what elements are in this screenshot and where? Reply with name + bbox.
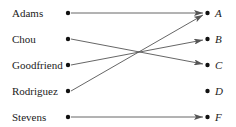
codomain-dot — [205, 63, 209, 67]
codomain-dot — [205, 37, 209, 41]
arrow-chou-c — [71, 39, 203, 64]
name-label: Goodfriend — [12, 59, 63, 71]
domain-set: Adams Chou Goodfriend Rodriguez Stevens — [12, 7, 70, 123]
codomain-dot — [205, 115, 209, 119]
name-label: Stevens — [12, 111, 46, 123]
arrow-rodriguez-a — [71, 15, 203, 91]
name-label: Adams — [12, 7, 43, 19]
codomain-dot — [205, 11, 209, 15]
name-label: Rodriguez — [12, 85, 58, 97]
grade-label: C — [215, 59, 223, 71]
domain-dot — [66, 115, 70, 119]
grade-label: B — [215, 33, 222, 45]
codomain-dot — [205, 89, 209, 93]
domain-dot — [66, 37, 70, 41]
grade-label: D — [214, 85, 223, 97]
grade-label: F — [214, 111, 222, 123]
arrows — [71, 13, 203, 117]
name-label: Chou — [12, 33, 36, 45]
grade-label: A — [214, 7, 222, 19]
domain-dot — [66, 63, 70, 67]
domain-dot — [66, 89, 70, 93]
domain-dot — [66, 11, 70, 15]
codomain-set: A B C D F — [205, 7, 223, 123]
mapping-diagram: Adams Chou Goodfriend Rodriguez Stevens … — [0, 0, 236, 127]
